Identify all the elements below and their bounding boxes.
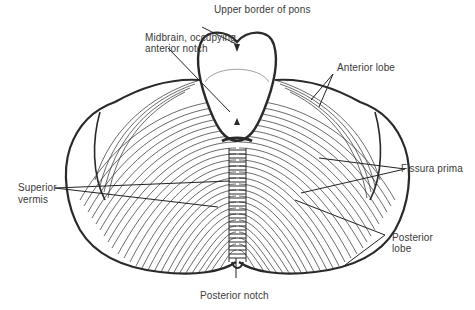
superior-vermis (229, 148, 246, 268)
cerebellum-diagram: Upper border of pons Midbrain, occupying… (0, 0, 475, 310)
midbrain (198, 33, 276, 141)
label-anterior-lobe: Anterior lobe (337, 62, 395, 74)
label-midbrain-line2: anterior notch (145, 43, 208, 55)
label-superior-vermis-line1: Superior (18, 182, 57, 194)
label-posterior-notch: Posterior notch (200, 290, 269, 302)
label-superior-vermis-line2: vermis (18, 194, 48, 206)
label-fissura-prima: Fissura prima (401, 163, 463, 175)
label-posterior-lobe-line2: lobe (392, 243, 411, 255)
label-upper-border-of-pons: Upper border of pons (214, 4, 311, 16)
cerebellum-illustration (0, 0, 475, 310)
